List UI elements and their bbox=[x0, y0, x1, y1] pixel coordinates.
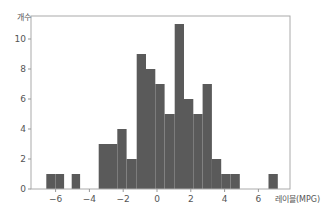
histogram-bar bbox=[117, 129, 126, 189]
histogram-bar bbox=[137, 54, 146, 189]
x-tick-label: −6 bbox=[49, 194, 63, 204]
x-tick-label: 0 bbox=[154, 194, 160, 204]
histogram-chart: −6−4−20246 0246810 개수 레이블(MPG) bbox=[0, 0, 334, 217]
x-tick-label: −2 bbox=[117, 194, 130, 204]
y-tick-label: 8 bbox=[20, 64, 26, 74]
histogram-bar bbox=[46, 174, 55, 189]
histogram-bar bbox=[221, 174, 230, 189]
histogram-bar bbox=[99, 144, 108, 189]
histogram-bar bbox=[184, 99, 193, 189]
histogram-bar bbox=[108, 144, 117, 189]
y-tick-label: 0 bbox=[20, 184, 26, 194]
histogram-bar bbox=[175, 24, 184, 189]
x-tick-label: 4 bbox=[222, 194, 228, 204]
x-tick-label: −4 bbox=[83, 194, 97, 204]
y-axis-label: 개수 bbox=[17, 12, 31, 22]
histogram-bar bbox=[231, 174, 240, 189]
histogram-bar bbox=[193, 114, 202, 189]
x-tick-label: 6 bbox=[256, 194, 262, 204]
y-tick-label: 10 bbox=[15, 34, 27, 44]
histogram-bar bbox=[72, 174, 80, 189]
x-axis-label: 레이블(MPG) bbox=[275, 194, 320, 204]
y-tick-label: 4 bbox=[20, 124, 26, 134]
histogram-bar bbox=[127, 159, 137, 189]
histogram-bar bbox=[269, 174, 278, 189]
histogram-bar bbox=[203, 84, 212, 189]
histogram-bar bbox=[212, 159, 221, 189]
x-axis-ticks: −6−4−20246 bbox=[49, 189, 262, 204]
histogram-bar bbox=[165, 114, 175, 189]
histogram-bar bbox=[146, 69, 155, 189]
y-axis-ticks: 0246810 bbox=[15, 34, 31, 194]
x-tick-label: 2 bbox=[188, 194, 194, 204]
histogram-bars bbox=[46, 24, 277, 189]
histogram-bar bbox=[56, 174, 65, 189]
histogram-bar bbox=[155, 84, 164, 189]
y-tick-label: 6 bbox=[20, 94, 26, 104]
y-tick-label: 2 bbox=[20, 154, 26, 164]
